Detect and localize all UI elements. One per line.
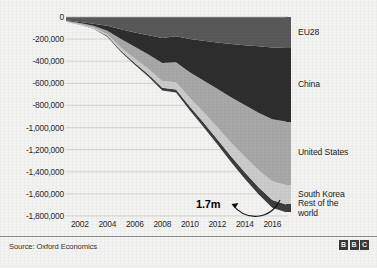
source-label: Source: Oxford Economics [9,242,97,251]
legend-swatch [286,17,291,48]
annotation-total-label: 1.7m [196,198,220,210]
chart-footer: Source: Oxford Economics BBC [0,236,377,268]
legend-label: United States [298,148,348,157]
legend-label: Rest of the world [298,199,338,218]
x-tick-label: 2012 [208,219,226,229]
y-tick-label: -400,000 [2,56,64,66]
bbc-logo: BBC [339,240,369,250]
x-tick-label: 2008 [153,219,171,229]
y-tick-label: -1,600,000 [2,189,64,199]
x-tick-label: 2004 [98,219,116,229]
x-axis-tick-labels: 20022004200620082010201220142016 [0,219,377,235]
x-tick-label: 2002 [71,219,89,229]
area-series-group [66,17,286,212]
annotation-arrow-icon [224,196,288,220]
y-tick-label: -1,000,000 [2,123,64,133]
x-tick-label: 2014 [236,219,254,229]
legend-label: EU28 [298,28,319,37]
y-tick-label: -1,400,000 [2,167,64,177]
x-tick-label: 2010 [181,219,199,229]
y-tick-label: -200,000 [2,34,64,44]
x-tick-label: 2006 [126,219,144,229]
chart-legend: EU28ChinaUnited StatesSouth KoreaRest of… [286,14,377,219]
bbc-logo-letter: B [339,240,348,250]
bbc-logo-letter: B [350,240,359,250]
y-tick-label: -600,000 [2,78,64,88]
y-tick-label: -1,200,000 [2,145,64,155]
legend-swatch [286,48,291,122]
legend-label: China [298,80,320,89]
y-tick-label: 0 [2,12,64,22]
bbc-logo-letter: C [360,240,369,250]
x-tick-label: 2016 [263,219,281,229]
y-tick-label: -800,000 [2,100,64,110]
legend-swatch [286,122,291,186]
y-axis-tick-labels: 0-200,000-400,000-600,000-800,000-1,000,… [0,0,64,236]
